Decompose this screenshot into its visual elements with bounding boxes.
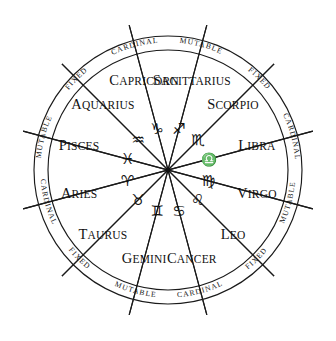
glyph-aries: ♈ — [121, 172, 134, 190]
glyph-cancer: ♋ — [172, 202, 185, 220]
sign-name-scorpio: SCORPIO — [207, 96, 259, 112]
sign-name-pisces: PISCES — [59, 137, 100, 153]
quality-label-mutable: MUTABLE — [179, 36, 224, 56]
glyph-pisces: ♓ — [121, 150, 134, 168]
quality-label-cardinal: CARDINAL — [281, 112, 302, 161]
glyph-scorpio: ♏ — [191, 131, 205, 149]
sign-name-cancer: CANCER — [167, 250, 217, 266]
glyph-libra: ♎ — [201, 152, 217, 167]
sign-name-taurus: TAURUS — [78, 226, 127, 242]
glyph-virgo: ♍ — [202, 172, 215, 190]
quality-label-mutable: MUTABLE — [34, 114, 54, 159]
glyph-aquarius: ♒ — [132, 131, 145, 149]
zodiac-wheel-diagram: CARDINALMUTABLEFIXEDCARDINALMUTABLEFIXED… — [0, 0, 336, 341]
sign-name-sagittarius: SAGITTARIUS — [153, 72, 231, 88]
glyph-leo: ♌ — [191, 191, 204, 209]
sign-name-aries: ARIES — [61, 185, 97, 201]
sign-name-leo: LEO — [221, 226, 246, 242]
sign-name-aquarius: AQUARIUS — [71, 96, 134, 112]
sign-name-libra: LIBRA — [238, 137, 276, 153]
glyph-capricorn: ♑ — [150, 120, 163, 138]
quality-label-cardinal: CARDINAL — [110, 36, 159, 57]
glyph-sagittarius: ♐ — [172, 120, 185, 138]
center-hub — [165, 167, 170, 172]
sign-name-gemini: GEMINI — [122, 250, 167, 266]
glyph-taurus: ♉ — [132, 191, 145, 209]
sign-name-virgo: VIRGO — [237, 185, 277, 201]
zodiac-wheel-canvas: CARDINALMUTABLEFIXEDCARDINALMUTABLEFIXED… — [0, 0, 336, 341]
glyph-gemini: ♊ — [150, 202, 163, 220]
